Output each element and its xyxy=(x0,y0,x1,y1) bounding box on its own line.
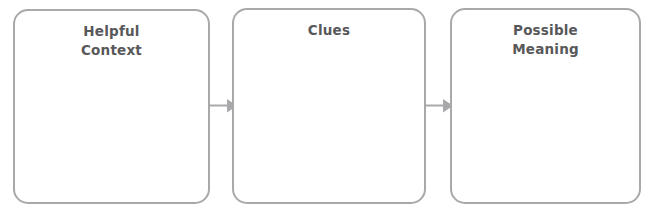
flow-diagram: Helpful Context Clues Possible Meaning xyxy=(0,0,658,219)
diagram-box-possible-meaning[interactable]: Possible Meaning xyxy=(450,8,641,204)
diagram-box-label: Helpful Context xyxy=(15,22,208,60)
diagram-box-helpful-context[interactable]: Helpful Context xyxy=(13,9,210,204)
diagram-box-label: Clues xyxy=(234,21,424,40)
diagram-box-clues[interactable]: Clues xyxy=(232,8,426,204)
diagram-box-label: Possible Meaning xyxy=(452,21,639,59)
